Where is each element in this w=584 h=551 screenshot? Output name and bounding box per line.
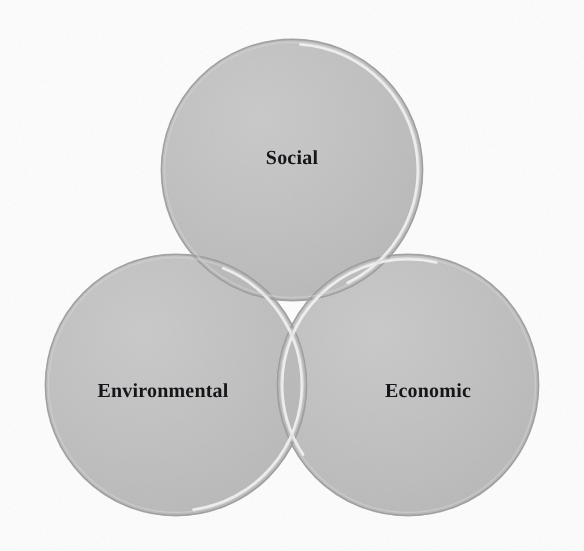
circle-label-environmental: Environmental [97, 380, 228, 403]
circle-label-economic: Economic [385, 380, 471, 403]
venn-diagram-figure: Social Environmental Economic [0, 0, 584, 551]
circle-label-social: Social [266, 147, 318, 170]
venn-diagram-canvas [0, 0, 584, 551]
